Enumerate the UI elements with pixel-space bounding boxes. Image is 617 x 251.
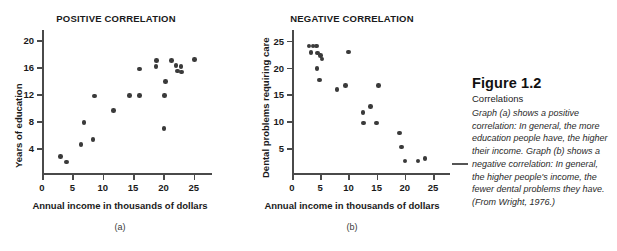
- y-tick-label-negative: 5: [279, 143, 284, 154]
- y-tick-label-negative: 15: [273, 89, 284, 100]
- data-point-positive: [127, 93, 132, 98]
- figure-number: Figure 1.2: [472, 76, 612, 92]
- data-point-positive: [64, 160, 69, 165]
- x-tick-label-negative: 5: [318, 182, 323, 193]
- figure-caption-text: Graph (a) shows a positive correlation: …: [472, 107, 612, 209]
- figure-subtitle: Correlations: [472, 93, 612, 105]
- x-axis-line-negative: [292, 173, 450, 175]
- data-point-negative: [416, 159, 421, 164]
- x-tick-label-negative: 20: [400, 182, 411, 193]
- y-tick-negative: [287, 41, 293, 43]
- y-tick-positive: [37, 94, 43, 96]
- data-point-positive: [192, 57, 197, 62]
- y-tick-positive: [37, 67, 43, 69]
- data-point-negative: [320, 57, 325, 62]
- x-tick-positive: [163, 174, 165, 180]
- x-tick-positive: [103, 174, 105, 180]
- figure-caption: Figure 1.2 Correlations Graph (a) shows …: [472, 76, 612, 209]
- x-tick-positive: [72, 174, 74, 180]
- x-tick-label-positive: 5: [70, 182, 75, 193]
- y-tick-positive: [37, 40, 43, 42]
- plot-area-negative: 5101520250510152025: [292, 30, 450, 175]
- x-tick-negative: [377, 174, 379, 180]
- y-tick-label-negative: 10: [273, 116, 284, 127]
- figure-container: POSITIVE CORRELATION 481216200510152025 …: [0, 0, 617, 251]
- data-point-positive: [162, 93, 167, 98]
- x-tick-positive: [194, 174, 196, 180]
- data-point-positive: [79, 142, 84, 147]
- x-axis-title-negative: Annual income in thousands of dollars: [254, 200, 450, 211]
- data-point-negative: [361, 110, 366, 115]
- data-point-positive: [91, 137, 96, 142]
- y-tick-label-positive: 20: [23, 35, 34, 46]
- y-tick-label-positive: 16: [23, 62, 34, 73]
- data-point-positive: [82, 120, 87, 125]
- data-point-positive: [169, 58, 174, 63]
- data-point-negative: [314, 44, 319, 49]
- x-tick-label-negative: 0: [289, 182, 294, 193]
- x-tick-label-negative: 10: [343, 182, 354, 193]
- panel-label-a: (a): [16, 222, 224, 232]
- y-tick-negative: [287, 148, 293, 150]
- plot-area-positive: 481216200510152025: [42, 30, 212, 175]
- data-point-positive: [174, 63, 179, 68]
- y-axis-title-positive: Years of education: [13, 84, 24, 168]
- y-tick-positive: [37, 121, 43, 123]
- y-tick-label-positive: 4: [29, 143, 34, 154]
- y-tick-negative: [287, 94, 293, 96]
- y-axis-title-negative: Dental problems requiring care: [260, 38, 271, 178]
- x-tick-label-positive: 10: [97, 182, 108, 193]
- x-tick-label-positive: 0: [39, 182, 44, 193]
- x-axis-title-positive: Annual income in thousands of dollars: [16, 200, 224, 211]
- x-tick-label-negative: 15: [371, 182, 382, 193]
- chart-title-negative: NEGATIVE CORRELATION: [258, 13, 446, 24]
- x-tick-label-positive: 20: [158, 182, 169, 193]
- data-point-positive: [154, 58, 159, 63]
- data-point-positive: [154, 64, 159, 69]
- panel-label-b: (b): [254, 222, 450, 232]
- caption-divider-rule: [452, 163, 468, 165]
- data-point-negative: [397, 131, 402, 136]
- data-point-positive: [163, 79, 168, 84]
- y-tick-negative: [287, 68, 293, 70]
- data-point-negative: [399, 145, 404, 150]
- data-point-positive: [162, 126, 167, 131]
- data-point-positive: [111, 108, 116, 113]
- x-axis-line-positive: [42, 173, 212, 175]
- data-point-negative: [346, 50, 351, 55]
- data-point-negative: [315, 66, 320, 71]
- data-point-negative: [309, 50, 314, 55]
- data-point-positive: [137, 67, 142, 72]
- x-tick-positive: [133, 174, 135, 180]
- data-point-negative: [374, 121, 379, 126]
- data-point-negative: [368, 104, 373, 109]
- data-point-negative: [317, 78, 322, 83]
- data-point-positive: [179, 70, 184, 75]
- x-tick-label-positive: 25: [188, 182, 199, 193]
- chart-title-positive: POSITIVE CORRELATION: [16, 13, 216, 24]
- data-point-positive: [137, 93, 142, 98]
- chart-panel-negative-correlation: NEGATIVE CORRELATION 5101520250510152025…: [240, 0, 452, 251]
- data-point-positive: [92, 94, 97, 99]
- data-point-negative: [403, 159, 408, 164]
- y-axis-line-negative: [292, 30, 294, 175]
- chart-panel-positive-correlation: POSITIVE CORRELATION 481216200510152025 …: [0, 0, 240, 251]
- data-point-negative: [376, 83, 381, 88]
- data-point-positive: [179, 64, 184, 69]
- x-tick-label-positive: 15: [128, 182, 139, 193]
- y-tick-negative: [287, 121, 293, 123]
- data-point-negative: [343, 83, 348, 88]
- data-point-negative: [423, 156, 428, 161]
- data-point-negative: [361, 121, 366, 126]
- x-tick-label-negative: 25: [428, 182, 439, 193]
- x-tick-negative: [292, 174, 294, 180]
- y-tick-label-negative: 25: [273, 35, 284, 46]
- y-tick-label-negative: 20: [273, 62, 284, 73]
- x-tick-negative: [433, 174, 435, 180]
- y-tick-positive: [37, 148, 43, 150]
- y-tick-label-positive: 12: [23, 89, 34, 100]
- y-axis-line-positive: [42, 30, 44, 175]
- data-point-negative: [335, 87, 340, 92]
- x-tick-negative: [405, 174, 407, 180]
- y-tick-label-positive: 8: [29, 116, 34, 127]
